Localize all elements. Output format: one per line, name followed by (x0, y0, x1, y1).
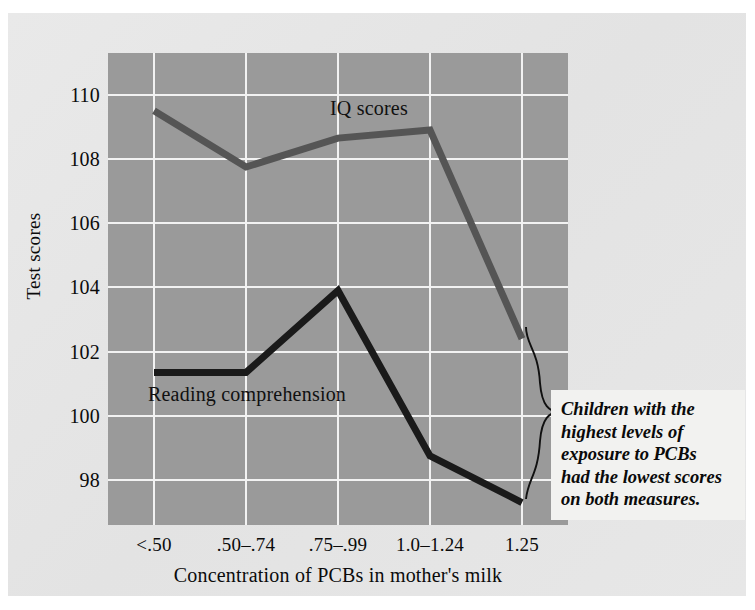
series-label-reading: Reading comprehension (148, 383, 346, 406)
y-axis-tick-label: 106 (38, 213, 100, 233)
y-axis-tick-label: 98 (38, 470, 100, 490)
series-svg (108, 53, 568, 525)
figure-card: Test scores 98100102104106108110 IQ scor… (8, 13, 746, 596)
y-axis-tick-labels: 98100102104106108110 (32, 53, 100, 525)
x-axis-tick-label: 1.25 (505, 534, 539, 556)
x-axis-tick-labels: <.50.50–.74.75–.991.0–1.241.25 (108, 534, 568, 562)
x-axis-tick-label: <.50 (136, 534, 171, 556)
series-line-iq-scores (154, 111, 522, 339)
annotation-text: Children with the highest levels of expo… (561, 398, 739, 511)
annotation-callout: Children with the highest levels of expo… (551, 390, 745, 520)
y-axis-tick-label: 100 (38, 406, 100, 426)
x-axis-tick-label: .50–.74 (217, 534, 275, 556)
y-axis-tick-label: 108 (38, 149, 100, 169)
series-label-iq: IQ scores (330, 97, 408, 120)
y-axis-tick-label: 110 (38, 85, 100, 105)
x-axis-title: Concentration of PCBs in mother's milk (68, 564, 608, 587)
y-axis-tick-label: 104 (38, 277, 100, 297)
x-axis-tick-label: .75–.99 (309, 534, 367, 556)
y-axis-tick-label: 102 (38, 342, 100, 362)
plot-area: IQ scores Reading comprehension (108, 53, 568, 525)
x-axis-tick-label: 1.0–1.24 (396, 534, 464, 556)
